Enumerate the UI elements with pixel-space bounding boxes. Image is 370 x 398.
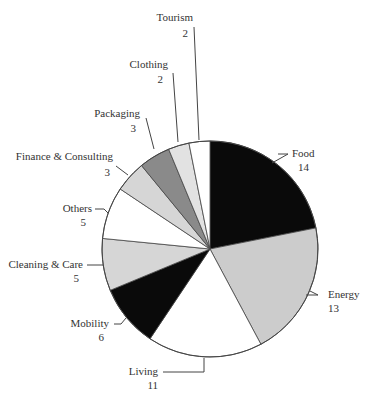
slice-label: Mobility: [70, 317, 109, 329]
slice-label: Energy: [328, 288, 360, 300]
pie-slices: [102, 141, 318, 357]
slice-value: 2: [158, 73, 164, 85]
slice-value: 5: [74, 272, 80, 284]
slice-value: 11: [147, 379, 158, 391]
slice-value: 5: [81, 216, 87, 228]
slice-value: 3: [105, 166, 111, 178]
slice-value: 14: [298, 161, 310, 173]
leader-line: [146, 118, 154, 149]
leader-line: [116, 166, 128, 175]
slice-value: 13: [328, 302, 340, 314]
leader-line: [173, 73, 178, 142]
leader-line: [194, 27, 199, 140]
leader-line: [163, 358, 204, 372]
slice-label: Packaging: [94, 107, 140, 119]
slice-value: 3: [131, 122, 137, 134]
slice-label: Clothing: [129, 58, 168, 70]
leader-line: [272, 154, 288, 163]
pie-chart: Food14Energy13Living11Mobility6Cleaning …: [0, 0, 370, 398]
slice-label: Cleaning & Care: [8, 258, 83, 270]
slice-label: Tourism: [156, 11, 193, 23]
slice-value: 6: [99, 331, 105, 343]
leader-line: [114, 318, 126, 324]
slice-label: Living: [129, 365, 159, 377]
slice-value: 2: [183, 27, 189, 39]
slice-label: Others: [63, 202, 92, 214]
leader-line: [95, 209, 108, 213]
slice-label: Finance & Consulting: [16, 150, 114, 162]
slice-label: Food: [292, 147, 315, 159]
